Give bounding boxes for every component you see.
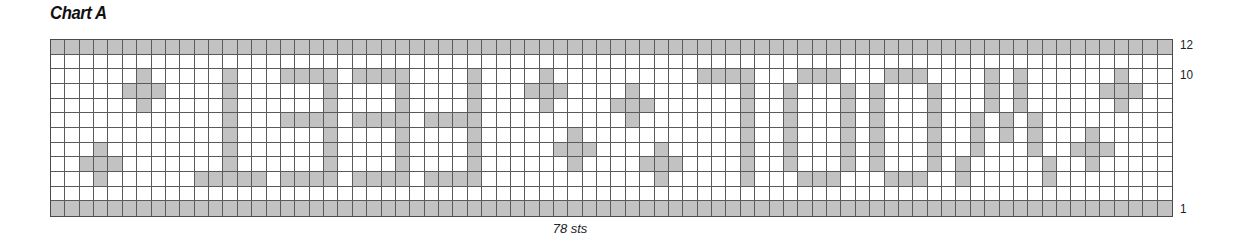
chart-cell [1057,40,1071,55]
chart-cell [396,55,410,70]
chart-cell [468,128,482,143]
chart-cell [755,113,769,128]
chart-cell [770,40,784,55]
chart-cell [1000,201,1014,216]
chart-cell [281,187,295,202]
chart-cell [712,172,726,187]
chart-cell [683,40,697,55]
chart-cell [798,187,812,202]
chart-cell [80,84,94,99]
chart-cell [784,201,798,216]
chart-cell [928,55,942,70]
chart-cell [51,128,65,143]
chart-cell [310,69,324,84]
chart-cell [94,201,108,216]
chart-cell [985,99,999,114]
chart-cell [841,143,855,158]
chart-cell [1158,84,1172,99]
chart-cell [453,187,467,202]
chart-cell [985,157,999,172]
chart-cell [367,113,381,128]
chart-cell [597,157,611,172]
chart-cell [554,157,568,172]
chart-cell [611,157,625,172]
chart-cell [870,143,884,158]
chart-cell [554,69,568,84]
chart-cell [180,128,194,143]
chart-cell [152,40,166,55]
chart-cell [511,40,525,55]
chart-cell [353,84,367,99]
chart-cell [425,40,439,55]
chart-cell [655,84,669,99]
chart-cell [252,128,266,143]
chart-cell [971,113,985,128]
chart-cell [439,113,453,128]
chart-cell [80,187,94,202]
chart-cell [152,84,166,99]
chart-cell [396,187,410,202]
chart-cell [813,143,827,158]
chart-cell [367,187,381,202]
chart-cell [1115,99,1129,114]
chart-cell [554,143,568,158]
chart-cell [353,113,367,128]
chart-cell [382,40,396,55]
chart-cell [180,40,194,55]
chart-cell [1129,128,1143,143]
chart-cell [540,69,554,84]
chart-cell [94,55,108,70]
chart-cell [1158,157,1172,172]
chart-cell [80,157,94,172]
chart-cell [94,128,108,143]
chart-cell [798,143,812,158]
chart-cell [928,69,942,84]
chart-cell [310,55,324,70]
chart-cell [755,172,769,187]
chart-cell [1086,99,1100,114]
chart-cell [755,84,769,99]
chart-cell [137,143,151,158]
chart-cell [1000,84,1014,99]
chart-cell [798,55,812,70]
chart-cell [856,99,870,114]
chart-cell [770,55,784,70]
chart-cell [669,55,683,70]
chart-cell [223,201,237,216]
chart-cell [238,201,252,216]
chart-cell [669,157,683,172]
chart-cell [310,99,324,114]
chart-cell [252,187,266,202]
chart-cell [324,201,338,216]
chart-cell [683,128,697,143]
chart-cell [108,40,122,55]
chart-cell [295,128,309,143]
chart-cell [784,113,798,128]
chart-cell [1100,69,1114,84]
chart-cell [669,143,683,158]
chart-cell [942,99,956,114]
chart-cell [338,157,352,172]
chart-cell [525,128,539,143]
chart-cell [741,69,755,84]
chart-cell [1043,157,1057,172]
chart-cell [468,157,482,172]
chart-cell [80,172,94,187]
chart-cell [497,128,511,143]
chart-cell [669,84,683,99]
chart-cell [899,113,913,128]
chart-cell [928,84,942,99]
chart-cell [611,40,625,55]
chart-cell [1043,40,1057,55]
chart-cell [497,157,511,172]
chart-cell [784,84,798,99]
chart-cell [841,55,855,70]
chart-cell [712,69,726,84]
chart-cell [180,113,194,128]
chart-cell [1043,201,1057,216]
chart-cell [798,157,812,172]
chart-cell [281,157,295,172]
chart-cell [353,55,367,70]
chart-cell [640,84,654,99]
chart-cell [956,128,970,143]
